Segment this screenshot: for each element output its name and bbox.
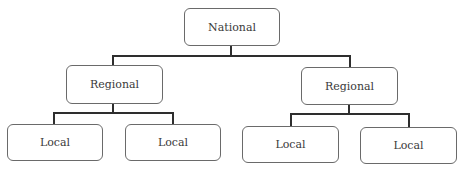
node-local-2: Local [125, 124, 221, 161]
connector-regional-left-horizontal [53, 112, 174, 114]
connector-national-horizontal [112, 55, 351, 57]
connector-to-regional-right [349, 55, 351, 67]
connector-to-local-1 [53, 112, 55, 124]
node-regional-right: Regional [301, 67, 398, 105]
node-local-1: Local [7, 124, 103, 161]
connector-to-local-2 [172, 112, 174, 124]
hierarchy-diagram: National Regional Regional Local Local L… [0, 0, 464, 169]
connector-to-local-3 [290, 113, 292, 126]
node-national: National [184, 8, 280, 46]
connector-regional-right-horizontal [290, 113, 410, 115]
node-regional-left: Regional [66, 65, 163, 104]
node-local-4: Local [360, 127, 457, 164]
connector-to-local-4 [408, 113, 410, 127]
node-local-3: Local [242, 126, 339, 163]
